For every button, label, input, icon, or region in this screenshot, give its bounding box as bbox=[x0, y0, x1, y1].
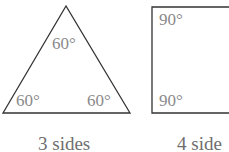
triangle-caption: 3 sides bbox=[38, 134, 90, 152]
triangle-top-angle-label: 60° bbox=[52, 35, 76, 52]
square-bottom-angle-label: 90° bbox=[159, 92, 183, 109]
triangle-right-angle-label: 60° bbox=[87, 92, 111, 109]
square-caption: 4 side bbox=[177, 134, 222, 152]
triangle-left-angle-label: 60° bbox=[16, 92, 40, 109]
shapes-canvas bbox=[0, 0, 229, 152]
square-top-angle-label: 90° bbox=[159, 11, 183, 28]
